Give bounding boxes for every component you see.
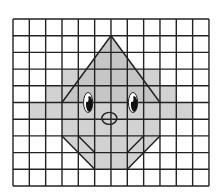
eye-highlight xyxy=(130,96,133,102)
left-eye xyxy=(84,92,93,112)
square-grid xyxy=(13,19,209,186)
right-eye xyxy=(128,92,137,112)
eye-highlight xyxy=(85,96,88,102)
grid-canvas xyxy=(0,0,220,194)
grid-figure xyxy=(0,0,220,194)
